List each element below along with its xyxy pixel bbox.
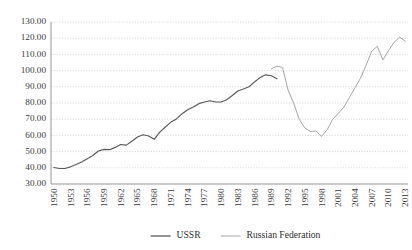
chart-canvas: 130.00120.00110.00100.0090.0080.0070.006… <box>0 0 412 250</box>
x-tick-label: 1953 <box>66 188 76 207</box>
x-tick-label: 1989 <box>266 188 276 207</box>
legend-label-russian-federation: Russian Federation <box>247 229 321 240</box>
y-tick-label: 50.00 <box>25 146 46 156</box>
x-tick-label: 2007 <box>367 188 377 207</box>
x-tick-label: 2004 <box>350 188 360 207</box>
gridlines <box>51 22 408 168</box>
x-tick-label: 1968 <box>149 188 159 207</box>
x-tick-label: 1965 <box>132 188 142 207</box>
line-chart: 130.00120.00110.00100.0090.0080.0070.006… <box>0 0 412 250</box>
x-tick-label: 1986 <box>250 188 260 207</box>
y-tick-label: 120.00 <box>21 32 47 42</box>
y-tick-label: 80.00 <box>25 97 46 107</box>
x-tick-label: 1983 <box>233 188 243 207</box>
chart-legend: USSRRussian Federation <box>151 229 321 240</box>
x-tick-label: 2010 <box>383 188 393 207</box>
x-tick-label: 2013 <box>400 188 410 207</box>
x-tick-label: 1962 <box>116 188 126 207</box>
y-axis-tick-labels: 130.00120.00110.00100.0090.0080.0070.006… <box>21 16 47 188</box>
y-tick-label: 90.00 <box>25 81 46 91</box>
x-tick-label: 1977 <box>199 188 209 207</box>
y-tick-label: 130.00 <box>21 16 47 26</box>
y-tick-label: 60.00 <box>25 130 46 140</box>
legend-label-ussr: USSR <box>177 229 202 240</box>
x-tick-label: 1980 <box>216 188 226 207</box>
x-tick-label: 1950 <box>49 188 59 207</box>
y-tick-label: 70.00 <box>25 113 46 123</box>
x-tick-label: 1971 <box>166 188 176 207</box>
x-tick-label: 1998 <box>317 188 327 207</box>
series-line-ussr <box>54 75 277 169</box>
x-axis-tick-labels: 1950195319561959196219651968197119741977… <box>49 188 410 207</box>
y-tick-label: 110.00 <box>21 49 46 59</box>
x-tick-label: 1959 <box>99 188 109 207</box>
y-tick-label: 30.00 <box>25 178 46 188</box>
y-tick-label: 40.00 <box>25 162 46 172</box>
x-tick-label: 1995 <box>300 188 310 207</box>
x-tick-label: 2001 <box>333 188 343 207</box>
x-tick-label: 1992 <box>283 188 293 207</box>
y-tick-label: 100.00 <box>21 65 47 75</box>
x-tick-label: 1956 <box>82 188 92 207</box>
x-tick-label: 1974 <box>183 188 193 207</box>
